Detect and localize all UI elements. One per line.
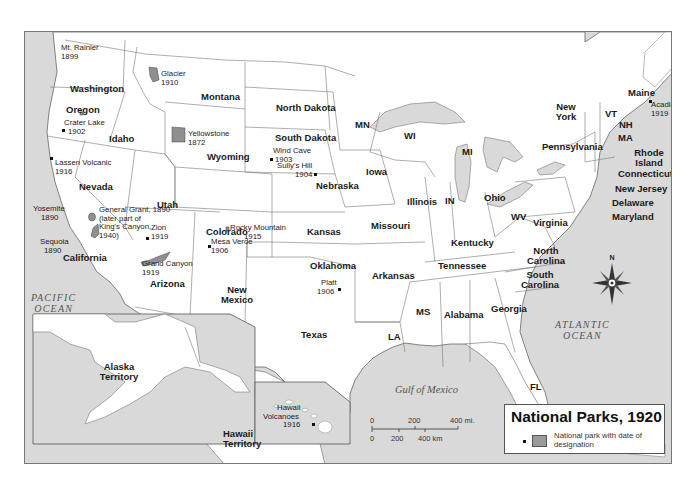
park-label-platt: Platt 1906 [317, 279, 337, 296]
state-label-california: California [63, 253, 107, 263]
state-label-ma: MA [618, 133, 633, 143]
state-label-connecticut: Connecticut [618, 169, 672, 179]
state-label-pennsylvania: Pennsylvania [542, 142, 603, 152]
svg-text:N: N [609, 254, 614, 261]
state-label-north-carolina: North Carolina [521, 246, 571, 267]
pacific-ocean-label: PACIFIC OCEAN [31, 292, 76, 314]
scale-km-200: 200 [391, 434, 404, 443]
park-marker-wind-cave [270, 158, 273, 161]
park-label-yosemite: Yosemite 1890 [33, 205, 65, 222]
state-label-delaware: Delaware [612, 198, 654, 208]
state-label-alabama: Alabama [444, 310, 484, 320]
park-marker-platt [338, 288, 341, 291]
gulf-of-mexico-label: Gulf of Mexico [395, 384, 458, 396]
state-label-in: IN [445, 196, 455, 206]
atlantic-ocean-label: ATLANTIC OCEAN [555, 319, 610, 341]
compass-rose-icon: N [590, 252, 634, 312]
legend-description: National park with date of designation [554, 432, 664, 449]
scale-km-400: 400 km [418, 434, 443, 443]
scale-km-0: 0 [370, 434, 374, 443]
state-label-wv: WV [511, 212, 526, 222]
state-label-mn: MN [355, 120, 370, 130]
park-marker-crater-lake [62, 129, 65, 132]
state-label-nh: NH [619, 120, 633, 130]
park-label-sullys-hill: Sully's Hill 1904 [277, 162, 312, 179]
state-label-montana: Montana [201, 92, 240, 102]
map-frame: N Washington Oregon California Idaho Nev… [24, 31, 672, 464]
state-label-fl: FL [530, 382, 542, 392]
park-label-grand-canyon: Grand Canyon 1919 [142, 260, 193, 277]
park-marker-lassen-volcanic [50, 157, 53, 160]
park-marker-sullys-hill [314, 173, 317, 176]
state-label-kentucky: Kentucky [451, 238, 494, 248]
state-label-illinois: Illinois [407, 197, 437, 207]
state-label-vt: VT [605, 109, 617, 119]
park-label-wind-cave: Wind Cave 1903 [273, 147, 311, 164]
legend-area-swatch-icon [532, 435, 547, 447]
state-label-wi: WI [404, 131, 416, 141]
park-label-crater-lake: Crater Lake 1902 [64, 119, 105, 136]
state-label-la: LA [388, 332, 401, 342]
park-label-lassen-volcanic: Lassen Volcanic 1916 [55, 159, 111, 176]
park-marker-mesa-verde [208, 245, 211, 248]
park-label-sequoia: Sequoia 1890 [40, 238, 69, 255]
yellowstone-area [172, 127, 185, 142]
scale-mi-400: 400 mi. [450, 416, 475, 425]
state-label-north-dakota: North Dakota [276, 103, 336, 113]
state-label-ms: MS [416, 307, 430, 317]
park-marker-acadia [649, 100, 652, 103]
park-marker-zion [146, 237, 149, 240]
state-label-new-york: New York [551, 102, 581, 123]
park-label-glacier: Glacier 1910 [161, 70, 186, 87]
state-label-kansas: Kansas [307, 227, 341, 237]
state-label-iowa: Iowa [366, 167, 387, 177]
state-label-nebraska: Nebraska [316, 181, 359, 191]
state-label-new-mexico: New Mexico [217, 285, 257, 306]
state-label-alaska-territory: Alaska Territory [97, 362, 141, 383]
state-label-ohio: Ohio [484, 193, 506, 203]
state-label-washington: Washington [70, 84, 124, 94]
park-label-acadia: Acadia 1919 [651, 101, 672, 118]
state-label-oklahoma: Oklahoma [310, 261, 356, 271]
park-label-hawaii-volcanoes: Hawaii Volcanoes 1916 [263, 404, 300, 430]
state-label-rhode-island: Rhode Island [631, 148, 667, 169]
state-label-new-jersey: New Jersey [615, 184, 667, 194]
scale-bar [372, 426, 458, 432]
state-label-oregon: Oregon [66, 105, 100, 115]
state-label-south-dakota: South Dakota [275, 133, 336, 143]
state-label-arkansas: Arkansas [372, 271, 415, 281]
state-label-nevada: Nevada [79, 182, 113, 192]
state-label-maryland: Maryland [612, 212, 654, 222]
state-label-georgia: Georgia [491, 304, 527, 314]
state-label-texas: Texas [301, 330, 327, 340]
map-base-svg [25, 32, 672, 464]
map-legend: National Parks, 1920 National park with … [504, 404, 665, 454]
state-label-missouri: Missouri [371, 221, 410, 231]
scale-mi-200: 200 [408, 416, 421, 425]
scale-mi-0: 0 [370, 416, 374, 425]
state-label-virginia: Virginia [533, 218, 568, 228]
park-label-mesa-verde: Mesa Verde 1906 [211, 238, 253, 255]
park-label-yellowstone: Yellowstone 1872 [188, 130, 229, 147]
state-label-wyoming: Wyoming [207, 152, 250, 162]
park-label-mt-rainier: Mt. Rainier 1899 [61, 44, 99, 61]
state-label-south-carolina: South Carolina [515, 270, 565, 291]
state-label-hawaii-territory: Hawaii Territory [223, 429, 261, 450]
legend-title: National Parks, 1920 [511, 408, 662, 426]
state-label-mi: MI [462, 147, 473, 157]
state-label-maine: Maine [628, 88, 655, 98]
state-label-tennessee: Tennessee [438, 261, 486, 271]
park-marker-hawaii-volcanoes [312, 423, 315, 426]
state-label-arizona: Arizona [150, 279, 185, 289]
yosemite-area [89, 213, 96, 221]
legend-point-symbol-icon [523, 440, 526, 443]
state-label-idaho: Idaho [109, 134, 134, 144]
park-label-zion: Zion 1919 [147, 224, 168, 241]
